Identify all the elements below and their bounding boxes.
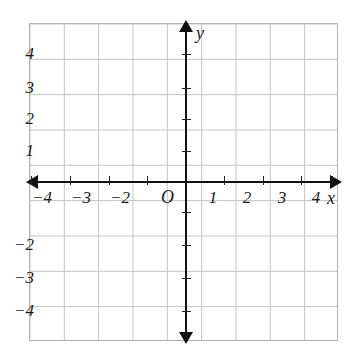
x-axis-label: x: [327, 189, 335, 207]
y-tick-3: [182, 88, 191, 89]
y-axis-line: [185, 27, 187, 337]
x-tick--4: [31, 176, 32, 185]
y-tick-label-3: 3: [0, 79, 34, 96]
y-tick-label-2: 2: [0, 110, 34, 127]
y-tick--4: [182, 311, 191, 312]
x-tick-label-4: 4: [303, 189, 329, 206]
x-tick-label-1: 1: [200, 189, 226, 206]
y-tick--3: [182, 278, 191, 279]
x-tick-label-2: 2: [234, 189, 260, 206]
y-tick-4: [182, 54, 191, 55]
y-axis-label: y: [196, 24, 204, 42]
x-tick-label--4: −4: [29, 189, 55, 206]
x-tick-label--2: −2: [107, 189, 133, 206]
y-axis-arrow-up: [179, 20, 193, 32]
x-tick-label-3: 3: [269, 189, 295, 206]
coordinate-plane-figure: −4 −3 −2 1 2 3 4 4 3 2 1 −2 −3 −4 O x y: [0, 0, 351, 351]
y-tick--2: [182, 245, 191, 246]
y-tick-label--2: −2: [0, 236, 34, 253]
x-tick-label--3: −3: [68, 189, 94, 206]
y-axis-arrow-down: [179, 332, 193, 344]
x-tick--2: [109, 176, 110, 185]
y-tick-label--4: −4: [0, 302, 34, 319]
x-tick--1: [147, 176, 148, 185]
y-tick-2: [182, 119, 191, 120]
y-tick--1: [182, 212, 191, 213]
origin-label: O: [161, 188, 174, 206]
x-axis-line: [33, 181, 334, 183]
x-tick-1: [224, 176, 225, 185]
x-tick-4: [332, 176, 333, 185]
y-tick-1: [182, 151, 191, 152]
y-tick-label-4: 4: [0, 45, 34, 62]
x-tick-3: [301, 176, 302, 185]
y-tick-label--3: −3: [0, 269, 34, 286]
y-tick-label-1: 1: [0, 142, 34, 159]
x-tick-2: [263, 176, 264, 185]
x-axis-arrow-left: [26, 175, 38, 189]
x-tick--3: [70, 176, 71, 185]
